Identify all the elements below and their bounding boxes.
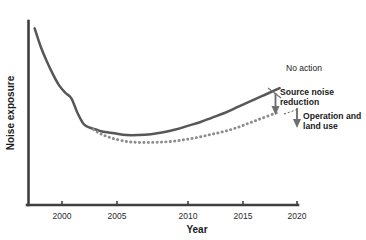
x-tick-label-2000: 2000	[53, 211, 72, 221]
series-no-action	[35, 28, 280, 135]
annotation-source-noise-reduction: Source noise reduction	[280, 88, 334, 107]
leader-line-operation-land-use	[284, 110, 296, 114]
x-axis-title: Year	[186, 224, 207, 235]
chart-container: 2000 2005 2010 2015 2020 Year Noise expo…	[0, 0, 366, 240]
annotation-no-action: No action	[286, 64, 322, 74]
x-tick-label-2005: 2005	[108, 211, 127, 221]
axes-group	[27, 21, 298, 205]
x-tick-label-2010: 2010	[179, 211, 198, 221]
x-tick-labels: 2000 2005 2010 2015 2020	[53, 211, 307, 221]
x-tick-label-2015: 2015	[234, 211, 253, 221]
y-axis-title: Noise exposure	[5, 75, 16, 150]
arrow-head-operation-land-use	[293, 119, 301, 128]
annotation-operation-and-land-use: Operation and land use	[303, 112, 361, 131]
x-tick-label-2020: 2020	[288, 211, 307, 221]
